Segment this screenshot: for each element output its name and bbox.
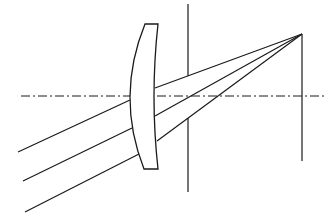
lens [130,24,158,169]
ray-1-incoming [18,100,130,152]
ray-1-outgoing [155,34,302,88]
ray-2-outgoing [155,34,302,116]
ray-3-outgoing [157,34,302,141]
optical-ray-diagram [0,0,335,223]
ray-3-incoming [25,154,139,212]
rays [18,34,302,212]
ray-2-incoming [23,128,132,181]
